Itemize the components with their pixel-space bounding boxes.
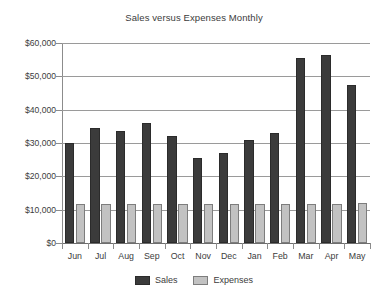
bar-group — [65, 43, 86, 243]
x-axis-label: Jun — [68, 251, 82, 261]
bar-sales[interactable] — [193, 158, 203, 243]
y-axis-label: $20,000 — [0, 171, 56, 181]
x-axis-tick — [293, 243, 294, 249]
bar-sales[interactable] — [90, 128, 100, 243]
plot-area — [62, 43, 370, 243]
x-axis-label: Feb — [273, 251, 288, 261]
x-axis-tick — [88, 243, 89, 249]
y-axis-label: $50,000 — [0, 71, 56, 81]
bar-expenses[interactable] — [307, 204, 317, 243]
x-axis-tick — [113, 243, 114, 249]
bar-group — [244, 43, 265, 243]
x-axis-tick — [216, 243, 217, 249]
legend-item[interactable]: Expenses — [193, 275, 253, 285]
chart-legend: SalesExpenses — [0, 275, 388, 285]
bar-group — [296, 43, 317, 243]
bar-sales[interactable] — [347, 85, 357, 243]
bar-sales[interactable] — [270, 133, 280, 243]
y-axis-label: $40,000 — [0, 105, 56, 115]
x-axis-tick — [344, 243, 345, 249]
legend-label: Sales — [155, 275, 178, 285]
bar-group — [193, 43, 214, 243]
x-axis-tick — [242, 243, 243, 249]
x-axis-label: Aug — [118, 251, 134, 261]
x-axis-label: May — [349, 251, 366, 261]
legend-item[interactable]: Sales — [135, 275, 178, 285]
bar-expenses[interactable] — [358, 203, 368, 243]
x-axis-tick — [370, 243, 371, 249]
y-axis-label: $0 — [0, 238, 56, 248]
bar-sales[interactable] — [244, 140, 254, 243]
bar-chart: Sales versus Expenses Monthly $60,000$50… — [0, 0, 388, 299]
x-axis-tick — [165, 243, 166, 249]
y-axis-label: $60,000 — [0, 38, 56, 48]
bar-group — [142, 43, 163, 243]
x-axis-tick — [139, 243, 140, 249]
bar-group — [347, 43, 368, 243]
x-axis-label: Apr — [325, 251, 339, 261]
bar-expenses[interactable] — [281, 204, 291, 243]
bar-sales[interactable] — [142, 123, 152, 243]
bar-expenses[interactable] — [204, 204, 214, 243]
bar-expenses[interactable] — [153, 204, 163, 243]
x-axis-label: Nov — [195, 251, 211, 261]
bar-expenses[interactable] — [127, 204, 137, 243]
bar-sales[interactable] — [167, 136, 177, 243]
x-axis-tick — [190, 243, 191, 249]
bar-expenses[interactable] — [178, 204, 188, 243]
bar-sales[interactable] — [219, 153, 229, 243]
bar-group — [116, 43, 137, 243]
x-axis-tick — [62, 243, 63, 249]
bar-expenses[interactable] — [101, 204, 111, 243]
legend-label: Expenses — [213, 275, 253, 285]
y-axis-label: $30,000 — [0, 138, 56, 148]
bar-group — [270, 43, 291, 243]
legend-swatch-icon — [135, 276, 150, 285]
bar-expenses[interactable] — [76, 204, 86, 243]
x-axis-tick — [319, 243, 320, 249]
bar-expenses[interactable] — [255, 204, 265, 243]
x-axis-label: Jan — [247, 251, 261, 261]
bar-sales[interactable] — [296, 58, 306, 243]
bar-expenses[interactable] — [332, 204, 342, 243]
x-axis-label: Jul — [95, 251, 106, 261]
bar-group — [167, 43, 188, 243]
x-axis-label: Oct — [171, 251, 185, 261]
legend-swatch-icon — [193, 276, 208, 285]
bar-group — [90, 43, 111, 243]
bar-sales[interactable] — [65, 143, 75, 243]
bar-group — [219, 43, 240, 243]
y-axis-label: $10,000 — [0, 205, 56, 215]
bar-sales[interactable] — [321, 55, 331, 243]
x-axis-label: Sep — [144, 251, 160, 261]
chart-title: Sales versus Expenses Monthly — [0, 12, 388, 23]
x-axis-label: Dec — [221, 251, 237, 261]
bar-group — [321, 43, 342, 243]
bar-sales[interactable] — [116, 131, 126, 243]
bar-expenses[interactable] — [230, 204, 240, 243]
x-axis-tick — [267, 243, 268, 249]
x-axis-label: Mar — [298, 251, 313, 261]
